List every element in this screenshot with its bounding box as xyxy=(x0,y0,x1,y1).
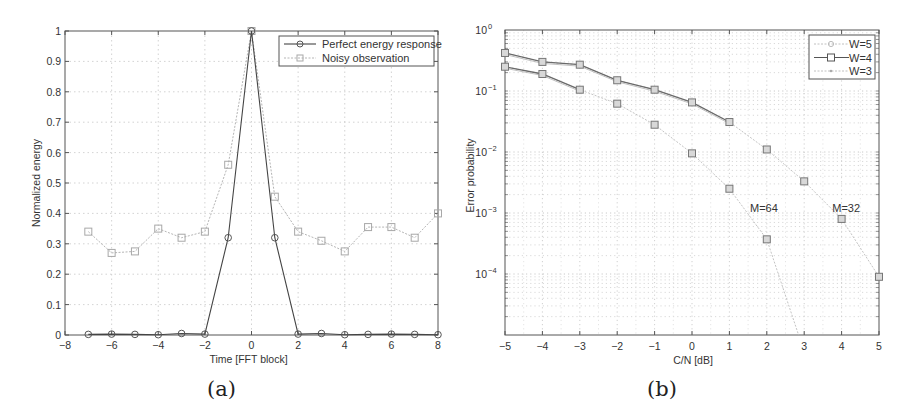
x-tick-label: −2 xyxy=(199,339,211,351)
y-tick-exponent: −2 xyxy=(488,144,497,153)
y-tick-label: 10 xyxy=(475,85,487,97)
legend-dot-icon xyxy=(830,70,833,73)
y-tick-label: 10 xyxy=(475,268,487,280)
data-marker-square xyxy=(539,70,546,77)
data-marker-square xyxy=(576,86,583,93)
x-tick-label: −5 xyxy=(499,340,511,352)
x-tick-label: −3 xyxy=(574,340,586,352)
x-tick-label: 2 xyxy=(295,339,301,351)
y-tick-label: 0.1 xyxy=(46,299,61,311)
chart-a-legend: Perfect energy responseNoisy observation xyxy=(279,36,442,66)
noisy-marker-square xyxy=(131,248,138,255)
data-marker-square xyxy=(838,215,845,222)
chart-b-canvas: −5−4−3−2−101234510010−110−210−310−4C/N [… xyxy=(455,0,911,420)
data-marker-square xyxy=(876,273,883,280)
y-tick-label: 10 xyxy=(475,24,487,36)
chart-a-y-axis-label: Normalized energy xyxy=(30,138,42,227)
x-tick-label: 2 xyxy=(764,340,770,352)
chart-b-y-axis-label: Error probability xyxy=(464,138,476,213)
chart-b-legend: W=5W=4W=3 xyxy=(809,35,875,79)
x-tick-label: −2 xyxy=(611,340,623,352)
chart-panel-b: −5−4−3−2−101234510010−110−210−310−4C/N [… xyxy=(455,0,911,420)
y-tick-label: 0.7 xyxy=(46,116,61,128)
data-marker-square xyxy=(502,49,509,56)
y-tick-label: 0.8 xyxy=(46,86,61,98)
data-marker-square xyxy=(726,119,733,126)
x-tick-label: 1 xyxy=(726,340,732,352)
legend-label-w4: W=4 xyxy=(849,52,872,64)
chart-a-ticks: −8−6−4−20246800.10.20.30.40.50.60.70.80.… xyxy=(46,25,441,351)
chart-panel-a: −8−6−4−20246800.10.20.30.40.50.60.70.80.… xyxy=(0,0,455,420)
x-tick-label: −4 xyxy=(152,339,164,351)
y-tick-label: 0.2 xyxy=(46,268,61,280)
chart-b-x-axis-label: C/N [dB] xyxy=(673,354,713,366)
legend-label-w5: W=5 xyxy=(849,38,872,50)
data-marker-square xyxy=(801,178,808,185)
data-marker-square xyxy=(651,121,658,128)
data-marker-square xyxy=(689,99,696,106)
x-tick-label: 4 xyxy=(839,340,845,352)
y-tick-label: 0.5 xyxy=(46,177,61,189)
chart-a-caption: (a) xyxy=(207,377,236,401)
data-marker-square xyxy=(576,61,583,68)
y-tick-exponent: −3 xyxy=(488,205,497,214)
x-tick-label: 6 xyxy=(388,339,394,351)
y-tick-label: 0.3 xyxy=(46,238,61,250)
data-marker-square xyxy=(539,58,546,65)
y-tick-exponent: −1 xyxy=(488,83,497,92)
x-tick-label: 0 xyxy=(249,339,255,351)
x-tick-label: 0 xyxy=(689,340,695,352)
y-tick-exponent: −4 xyxy=(488,266,497,275)
x-tick-label: 4 xyxy=(342,339,348,351)
legend-square-icon xyxy=(828,54,835,61)
data-marker-square xyxy=(763,146,770,153)
x-tick-label: −6 xyxy=(106,339,118,351)
noisy-marker-square xyxy=(365,224,372,231)
y-tick-label: 10 xyxy=(475,207,487,219)
data-marker-square xyxy=(614,100,621,107)
x-tick-label: −4 xyxy=(536,340,548,352)
legend-label-perfect: Perfect energy response xyxy=(322,38,442,50)
annotation-m64: M=64 xyxy=(750,202,778,214)
series-m64 xyxy=(502,63,799,335)
y-tick-label: 1 xyxy=(55,25,61,37)
x-tick-label: 3 xyxy=(801,340,807,352)
y-tick-exponent: 0 xyxy=(488,22,492,31)
data-marker-square xyxy=(614,77,621,84)
chart-b-caption: (b) xyxy=(647,377,677,401)
chart-a-x-axis-label: Time [FFT block] xyxy=(209,353,287,365)
legend-label-noisy: Noisy observation xyxy=(322,52,409,64)
y-tick-label: 0.4 xyxy=(46,207,61,219)
y-tick-label: 0.9 xyxy=(46,55,61,67)
legend-label-w3: W=3 xyxy=(849,65,872,77)
x-tick-label: 5 xyxy=(876,340,882,352)
data-marker-square xyxy=(651,86,658,93)
chart-a-canvas: −8−6−4−20246800.10.20.30.40.50.60.70.80.… xyxy=(0,0,455,420)
data-marker-square xyxy=(689,150,696,157)
data-marker-square xyxy=(726,185,733,192)
noisy-marker-square xyxy=(411,234,418,241)
y-tick-label: 0 xyxy=(55,329,61,341)
y-tick-label: 10 xyxy=(475,146,487,158)
data-marker-square xyxy=(763,236,770,243)
data-marker-square xyxy=(502,63,509,70)
y-tick-label: 0.6 xyxy=(46,147,61,159)
annotation-m32: M=32 xyxy=(832,202,860,214)
chart-a-grid xyxy=(65,31,438,335)
x-tick-label: 8 xyxy=(435,339,441,351)
x-tick-label: −1 xyxy=(649,340,661,352)
